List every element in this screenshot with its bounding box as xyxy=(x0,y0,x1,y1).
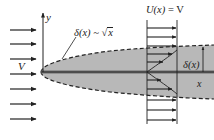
boundary-layer-diagram: V y δ(x) ~ √x U(x) = V δ(x) x xyxy=(0,0,214,140)
outer-velocity-lhs: U(x) xyxy=(146,4,165,15)
diagram-canvas xyxy=(0,0,214,140)
outer-velocity-label: U(x) = V xyxy=(146,5,184,16)
freestream-velocity-label: V xyxy=(18,61,25,72)
thickness-formula-sqrt-arg: x xyxy=(107,27,113,39)
outer-velocity-rhs: = V xyxy=(165,4,184,15)
thickness-formula-lhs: δ(x) ~ xyxy=(74,27,101,38)
thickness-leader-line xyxy=(62,37,76,59)
thickness-right-label: δ(x) xyxy=(183,60,200,71)
thickness-formula-label: δ(x) ~ √x xyxy=(74,27,113,39)
y-axis-label: y xyxy=(46,12,51,23)
x-axis-label: x xyxy=(197,79,201,89)
freestream-arrows xyxy=(10,30,36,119)
